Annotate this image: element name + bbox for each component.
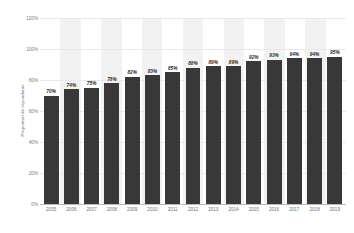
bar[interactable]	[206, 66, 221, 204]
bar-value-label: 74%	[61, 83, 81, 88]
bar-slot: 88%	[183, 18, 203, 204]
bar-value-label: 92%	[244, 55, 264, 60]
bar-slot: 94%	[284, 18, 304, 204]
bar[interactable]	[84, 88, 99, 204]
bar-value-label: 89%	[203, 60, 223, 65]
bar-slot: 85%	[163, 18, 183, 204]
bar-value-label: 94%	[284, 52, 304, 57]
bar-value-label: 85%	[163, 66, 183, 71]
bars-container: 70%74%75%78%82%83%85%88%89%89%92%93%94%9…	[40, 18, 346, 204]
bar-chart: Proportion de répondants 0%20%40%60%80%1…	[0, 0, 354, 233]
bar-value-label: 88%	[183, 61, 203, 66]
bar-slot: 95%	[325, 18, 345, 204]
y-axis-tick-label: 0%	[8, 202, 38, 207]
bar[interactable]	[44, 96, 59, 205]
bar[interactable]	[125, 77, 140, 204]
y-axis-tick-label: 100%	[8, 47, 38, 52]
x-axis-tick-label: 2019	[325, 207, 345, 212]
bar[interactable]	[307, 58, 322, 204]
bar-slot: 89%	[203, 18, 223, 204]
bar[interactable]	[327, 57, 342, 204]
y-axis-tick-label: 80%	[8, 78, 38, 83]
bar[interactable]	[226, 66, 241, 204]
bar-value-label: 70%	[41, 89, 61, 94]
bar-value-label: 89%	[223, 60, 243, 65]
bar-slot: 82%	[122, 18, 142, 204]
x-axis-tick-label: 2011	[163, 207, 183, 212]
x-axis-tick-label: 2016	[264, 207, 284, 212]
plot-area: 70%74%75%78%82%83%85%88%89%89%92%93%94%9…	[40, 18, 346, 204]
y-axis-tick-label: 120%	[8, 16, 38, 21]
x-axis-tick-label: 2007	[82, 207, 102, 212]
bar[interactable]	[145, 75, 160, 204]
x-axis-tick-label: 2005	[41, 207, 61, 212]
bar-slot: 94%	[304, 18, 324, 204]
bar[interactable]	[186, 68, 201, 204]
bar-value-label: 83%	[142, 69, 162, 74]
x-axis-tick-label: 2018	[304, 207, 324, 212]
axis-baseline	[40, 204, 346, 205]
x-axis-tick-label: 2017	[284, 207, 304, 212]
bar-slot: 74%	[61, 18, 81, 204]
bar-slot: 78%	[102, 18, 122, 204]
x-axis-tick-label: 2006	[61, 207, 81, 212]
bar-slot: 70%	[41, 18, 61, 204]
x-axis-tick-labels: 2005200620072008200920102011201220132014…	[40, 207, 346, 212]
x-axis-tick-label: 2010	[142, 207, 162, 212]
bar-value-label: 93%	[264, 53, 284, 58]
x-axis-tick-label: 2013	[203, 207, 223, 212]
bar-slot: 89%	[223, 18, 243, 204]
x-axis-tick-label: 2014	[223, 207, 243, 212]
bar-value-label: 75%	[82, 81, 102, 86]
bar[interactable]	[287, 58, 302, 204]
y-axis-tick-labels: 0%20%40%60%80%100%120%	[8, 0, 38, 233]
bar[interactable]	[246, 61, 261, 204]
bar-value-label: 82%	[122, 70, 142, 75]
bar-slot: 92%	[244, 18, 264, 204]
bar[interactable]	[165, 72, 180, 204]
bar-slot: 93%	[264, 18, 284, 204]
bar-value-label: 95%	[325, 50, 345, 55]
x-axis-tick-label: 2012	[183, 207, 203, 212]
bar-slot: 83%	[142, 18, 162, 204]
bar[interactable]	[104, 83, 119, 204]
bar-slot: 75%	[82, 18, 102, 204]
x-axis-tick-label: 2009	[122, 207, 142, 212]
bar[interactable]	[267, 60, 282, 204]
bar-value-label: 78%	[102, 77, 122, 82]
y-axis-tick-label: 60%	[8, 109, 38, 114]
bar[interactable]	[64, 89, 79, 204]
y-axis-tick-label: 20%	[8, 171, 38, 176]
x-axis-tick-label: 2015	[244, 207, 264, 212]
bar-value-label: 94%	[304, 52, 324, 57]
x-axis-tick-label: 2008	[102, 207, 122, 212]
y-axis-tick-label: 40%	[8, 140, 38, 145]
